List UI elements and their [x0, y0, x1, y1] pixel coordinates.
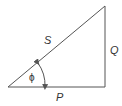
hypotenuse-s	[8, 6, 105, 87]
triangle-diagram: S Q P ϕ	[0, 0, 122, 106]
label-s: S	[44, 34, 52, 46]
label-p: P	[56, 91, 64, 103]
label-phi: ϕ	[29, 72, 35, 83]
angle-arc-icon	[38, 63, 46, 88]
label-q: Q	[110, 44, 119, 56]
